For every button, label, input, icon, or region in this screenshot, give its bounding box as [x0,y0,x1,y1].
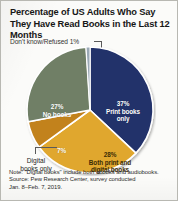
slice-value-no-books: 27% [33,103,81,111]
slice-value-digital-books-only: 7% [57,147,79,154]
digital-leader-line-vertical [35,147,36,154]
footnote-dates: Jan. 8–Feb. 7, 2019. [9,184,175,191]
digital-leader-line-horizontal [35,147,57,148]
slice-label-no-books: 27% No books [33,103,81,118]
chart-title: Percentage of US Adults Who Say They Hav… [10,7,172,42]
pie-chart-figure: Percentage of US Adults Who Say They Hav… [0,0,178,201]
footnote-note: Note: "Digital books" include both ebook… [9,169,175,176]
slice-name-print-line2: only [97,115,149,123]
slice-value-print: 37% [97,100,149,108]
footnote-source: Source: Pew Research Center, survey cond… [9,176,175,183]
digital-name-line1: Digital [27,157,45,164]
slice-name-both-line1: Both print and [79,159,141,167]
slice-label-print-books-only: 37% Print books only [97,100,149,123]
slice-name-no-books: No books [33,111,81,119]
pie-chart-area: 37% Print books only 27% No books 28% Bo… [1,43,178,169]
chart-footnote: Note: "Digital books" include both ebook… [9,169,175,191]
slice-value-both: 28% [79,151,141,159]
